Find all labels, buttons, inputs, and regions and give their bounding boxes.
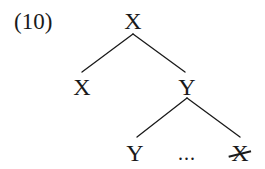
- branch-y-right: [187, 98, 240, 137]
- ellipsis: ...: [178, 141, 196, 165]
- branch-root-left: [82, 34, 133, 72]
- node-deleted-x: X: [231, 141, 248, 165]
- branch-root-right: [133, 34, 185, 72]
- node-right-y: Y: [178, 75, 195, 99]
- node-root: X: [124, 9, 141, 33]
- branch-y-left: [137, 98, 187, 137]
- node-left-x: X: [73, 75, 90, 99]
- node-bottom-y: Y: [126, 141, 143, 165]
- example-number: (10): [14, 10, 52, 34]
- syntax-tree-diagram: (10) X X Y Y ... X: [0, 0, 265, 169]
